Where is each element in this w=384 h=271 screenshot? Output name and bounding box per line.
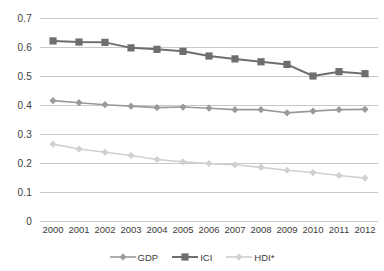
data-point bbox=[361, 174, 368, 181]
x-tick-label: 2003 bbox=[120, 224, 141, 235]
legend-marker-diamond-icon bbox=[110, 251, 136, 263]
data-point bbox=[335, 172, 342, 179]
data-point bbox=[127, 152, 134, 159]
x-tick-label: 2002 bbox=[94, 224, 115, 235]
legend-item-ici[interactable]: ICI bbox=[172, 251, 212, 263]
data-point bbox=[231, 106, 238, 113]
data-point bbox=[205, 105, 212, 112]
x-tick-label: 2004 bbox=[146, 224, 167, 235]
x-tick-label: 2007 bbox=[224, 224, 245, 235]
series-hdi bbox=[49, 141, 368, 182]
data-point bbox=[153, 46, 160, 53]
series-layer bbox=[40, 18, 378, 221]
data-point bbox=[205, 52, 212, 59]
x-tick-label: 2010 bbox=[302, 224, 323, 235]
y-axis: 0.70.60.50.40.30.20.10 bbox=[0, 18, 36, 221]
x-tick-label: 2005 bbox=[172, 224, 193, 235]
data-point bbox=[127, 103, 134, 110]
data-point bbox=[231, 161, 238, 168]
x-tick-label: 2011 bbox=[329, 224, 349, 235]
data-point bbox=[309, 107, 316, 114]
plot-area bbox=[40, 18, 378, 221]
legend-label: HDI* bbox=[254, 252, 274, 263]
y-tick-label: 0.1 bbox=[17, 187, 32, 198]
data-point bbox=[361, 70, 368, 77]
x-tick-label: 2009 bbox=[276, 224, 297, 235]
x-tick-label: 2008 bbox=[250, 224, 271, 235]
data-point bbox=[335, 106, 342, 113]
legend-label: GDP bbox=[138, 252, 159, 263]
x-axis: 2000200120022003200420052006200720082009… bbox=[40, 224, 378, 238]
data-point bbox=[283, 167, 290, 174]
data-point bbox=[309, 72, 316, 79]
gridline bbox=[40, 221, 378, 222]
data-point bbox=[257, 164, 264, 171]
data-point bbox=[101, 101, 108, 108]
y-tick-label: 0.5 bbox=[17, 71, 32, 82]
data-point bbox=[205, 160, 212, 167]
data-point bbox=[231, 55, 238, 62]
y-tick-label: 0 bbox=[26, 216, 32, 227]
data-point bbox=[309, 169, 316, 176]
data-point bbox=[179, 158, 186, 165]
legend-marker-diamond-icon bbox=[226, 251, 252, 263]
series-gdp bbox=[49, 97, 368, 116]
y-tick-label: 0.7 bbox=[17, 13, 32, 24]
data-point bbox=[49, 37, 56, 44]
data-point bbox=[101, 149, 108, 156]
x-tick-label: 2012 bbox=[354, 224, 375, 235]
legend-item-gdp[interactable]: GDP bbox=[110, 251, 159, 263]
legend-marker-square-icon bbox=[172, 251, 198, 263]
series-ici bbox=[49, 37, 368, 79]
data-point bbox=[49, 97, 56, 104]
x-tick-label: 2000 bbox=[42, 224, 63, 235]
data-point bbox=[179, 103, 186, 110]
data-point bbox=[101, 39, 108, 46]
data-point bbox=[335, 68, 342, 75]
x-tick-label: 2001 bbox=[68, 224, 89, 235]
chart-legend: GDPICIHDI* bbox=[0, 248, 384, 266]
y-tick-label: 0.4 bbox=[17, 100, 32, 111]
y-tick-label: 0.2 bbox=[17, 158, 32, 169]
data-point bbox=[153, 156, 160, 163]
data-point bbox=[283, 61, 290, 68]
data-point bbox=[257, 58, 264, 65]
data-point bbox=[75, 38, 82, 45]
data-point bbox=[283, 109, 290, 116]
legend-label: ICI bbox=[200, 252, 212, 263]
y-tick-label: 0.6 bbox=[17, 42, 32, 53]
data-point bbox=[127, 44, 134, 51]
data-point bbox=[179, 48, 186, 55]
data-point bbox=[361, 106, 368, 113]
line-chart: 0.70.60.50.40.30.20.10 20002001200220032… bbox=[0, 0, 384, 271]
data-point bbox=[49, 141, 56, 148]
data-point bbox=[75, 99, 82, 106]
x-tick-label: 2006 bbox=[198, 224, 219, 235]
y-tick-label: 0.3 bbox=[17, 129, 32, 140]
data-point bbox=[257, 106, 264, 113]
data-point bbox=[153, 104, 160, 111]
data-point bbox=[75, 145, 82, 152]
legend-item-hdi[interactable]: HDI* bbox=[226, 251, 274, 263]
